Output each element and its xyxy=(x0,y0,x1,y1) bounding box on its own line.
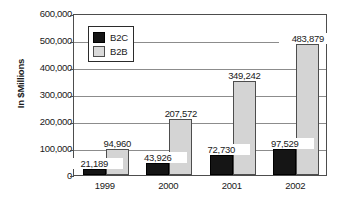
data-label-b2b-1999: 94,960 xyxy=(88,138,146,149)
bar-b2b-2002 xyxy=(296,44,319,175)
legend-swatch-b2b-icon xyxy=(93,46,105,57)
bar-b2c-2002 xyxy=(273,149,296,175)
y-axis-tick-label: 100,000 xyxy=(10,143,72,154)
bar-chart: In $Millions 0100,000200,000300,000400,0… xyxy=(0,0,342,206)
x-axis-tick-label: 2002 xyxy=(264,180,328,191)
y-axis-tick-label: 300,000 xyxy=(10,89,72,100)
legend-item-b2c: B2C xyxy=(93,30,128,44)
data-label-b2c-2001: 72,730 xyxy=(192,144,250,155)
x-axis-tick-label: 2001 xyxy=(200,180,264,191)
data-label-b2c-2000: 43,926 xyxy=(129,152,187,163)
data-label-b2b-2001: 349,242 xyxy=(215,70,273,81)
legend: B2C B2B xyxy=(88,26,134,62)
x-axis-tick-label: 2000 xyxy=(137,180,201,191)
legend-item-b2b: B2B xyxy=(93,44,128,58)
y-axis-tick-label: 0 xyxy=(10,170,72,181)
legend-label-b2b: B2B xyxy=(110,46,127,57)
data-label-b2c-1999: 21,189 xyxy=(65,158,123,169)
bar-b2b-2000 xyxy=(169,119,192,175)
x-axis-tick-label: 1999 xyxy=(73,180,137,191)
y-axis-tickmark xyxy=(70,15,74,16)
gridline xyxy=(74,123,326,124)
y-axis-tickmark xyxy=(70,96,74,97)
data-label-b2b-2002: 483,879 xyxy=(279,33,337,44)
y-axis-tickmark xyxy=(70,150,74,151)
bar-b2b-2001 xyxy=(233,81,256,175)
legend-label-b2c: B2C xyxy=(110,32,128,43)
y-axis-tickmark xyxy=(70,176,74,177)
y-axis-tick-label: 600,000 xyxy=(10,8,72,19)
y-axis-tickmark xyxy=(70,42,74,43)
y-axis-tick-label: 400,000 xyxy=(10,62,72,73)
bar-b2c-2000 xyxy=(146,163,169,175)
bar-b2c-2001 xyxy=(210,155,233,175)
y-axis-tick-label: 500,000 xyxy=(10,35,72,46)
legend-swatch-b2c-icon xyxy=(93,32,105,43)
data-label-b2b-2000: 207,572 xyxy=(152,108,210,119)
data-label-b2c-2002: 97,529 xyxy=(256,138,314,149)
y-axis-tick-label: 200,000 xyxy=(10,116,72,127)
bar-b2c-1999 xyxy=(83,169,106,175)
gridline xyxy=(74,96,326,97)
y-axis-tickmark xyxy=(70,123,74,124)
y-axis-tickmark xyxy=(70,69,74,70)
gridline xyxy=(74,69,326,70)
